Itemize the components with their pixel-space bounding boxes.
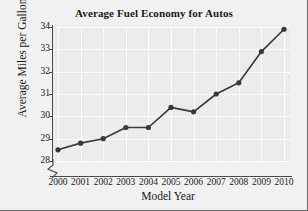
y-tick-label: 29 (28, 134, 50, 144)
y-tick-label: 30 (28, 111, 50, 121)
y-tick-mark (49, 72, 53, 73)
plot-area (52, 27, 290, 161)
gridline-vertical (171, 27, 172, 161)
y-tick-label: 34 (28, 22, 50, 32)
gridline-vertical (216, 27, 217, 161)
y-tick-label: 33 (28, 44, 50, 54)
gridline-vertical (239, 27, 240, 161)
gridline-horizontal (52, 161, 290, 162)
y-tick-mark (49, 27, 53, 28)
gridline-vertical (126, 27, 127, 161)
gridline-vertical (58, 27, 59, 161)
y-tick-mark (49, 139, 53, 140)
y-tick-mark (49, 116, 53, 117)
gridline-vertical (194, 27, 195, 161)
y-tick-mark (49, 94, 53, 95)
y-tick-label: 32 (28, 67, 50, 77)
gridline-vertical (261, 27, 262, 161)
y-tick-mark (49, 49, 53, 50)
gridline-vertical (103, 27, 104, 161)
y-tick-label: 31 (28, 89, 50, 99)
y-tick-mark (49, 161, 53, 162)
chart-figure: Average Fuel Economy for Autos Average M… (0, 0, 308, 211)
gridline-vertical (148, 27, 149, 161)
x-axis-title: Model Year (44, 190, 292, 202)
gridline-vertical (284, 27, 285, 161)
y-tick-label: 28 (28, 156, 50, 166)
x-tick-label: 2010 (269, 178, 299, 188)
gridline-vertical (81, 27, 82, 161)
